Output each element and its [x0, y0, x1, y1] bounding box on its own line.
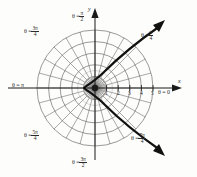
angle-label-denominator: 2: [79, 16, 84, 23]
angle-label-theta-pi-over-4: θ =π4: [141, 30, 153, 42]
angle-label-theta-pi: θ =π: [12, 82, 24, 88]
angle-label-theta-text: θ =: [24, 132, 31, 138]
angle-label-numerator: π: [19, 82, 23, 88]
angle-label-denominator: 4: [138, 138, 145, 145]
angle-label-fraction: 3π4: [31, 26, 38, 38]
angle-label-theta-text: θ =: [141, 32, 148, 38]
angle-label-numerator: 0: [165, 89, 169, 95]
angle-label-fraction: π2: [79, 11, 84, 23]
angle-label-theta-text: θ =: [72, 159, 79, 165]
angle-label-denominator: 2: [79, 162, 86, 169]
angle-label-theta-pi-over-2: θ =π2: [72, 11, 84, 23]
angle-label-theta-5pi-over-4: θ =5π4: [24, 130, 39, 142]
angle-label-theta-0: θ =0: [158, 89, 170, 95]
angle-label-fraction: π4: [148, 30, 153, 42]
x-axis-label: x: [178, 78, 181, 84]
angle-label-theta-3pi-over-4: θ =3π4: [24, 26, 39, 38]
angle-label-theta-7pi-over-4: θ =7π4: [131, 133, 146, 145]
angle-label-denominator: 4: [148, 35, 153, 42]
angle-label-theta-text: θ =: [131, 135, 138, 141]
angle-label-fraction: 3π2: [79, 157, 86, 169]
angle-label-fraction: 7π4: [138, 133, 145, 145]
angle-label-theta-3pi-over-2: θ =3π2: [72, 157, 87, 169]
angle-label-theta-text: θ =: [72, 13, 79, 19]
angle-label-denominator: 4: [31, 31, 38, 38]
y-axis-label: y: [88, 6, 91, 12]
angle-label-fraction: 5π4: [31, 130, 38, 142]
angle-label-denominator: 4: [31, 135, 38, 142]
x-tick-label-3: 3: [128, 91, 131, 97]
x-tick-label-4: 4: [140, 91, 143, 97]
polar-plot-figure: y x 1 2 3 4 5 θ =π2 θ =3π4 θ =π θ =5π4 θ…: [0, 0, 197, 177]
x-tick-label-5: 5: [151, 91, 154, 97]
x-tick-label-1: 1: [105, 91, 108, 97]
angle-label-theta-text: θ =: [24, 28, 31, 34]
x-tick-label-2: 2: [117, 91, 120, 97]
